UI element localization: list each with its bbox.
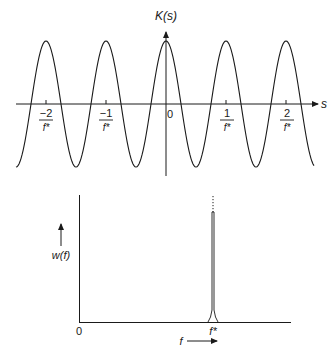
tick-label-neg2: −2 f* <box>39 107 53 133</box>
k-axis-label: K(s) <box>155 9 177 23</box>
svg-text:f*: f* <box>103 122 111 133</box>
bottom-plot: w(f) 0 f* f <box>52 195 291 347</box>
tick-label-neg1: −1 f* <box>99 107 113 133</box>
f-axis-label: f <box>179 335 183 347</box>
svg-text:1: 1 <box>224 107 230 119</box>
tick-label-pos1: 1 f* <box>220 107 234 133</box>
s-axis-label: s <box>321 97 327 111</box>
w-axis-label: w(f) <box>52 249 71 261</box>
figure: K(s) s 0 −2 f* −1 f* 1 f* 2 f* <box>0 0 334 361</box>
tick-label-pos2: 2 f* <box>280 107 294 133</box>
top-origin-label: 0 <box>167 108 173 120</box>
bottom-origin-label: 0 <box>76 325 82 337</box>
svg-text:−1: −1 <box>100 107 113 119</box>
svg-text:2: 2 <box>284 107 290 119</box>
top-plot: K(s) s 0 −2 f* −1 f* 1 f* 2 f* <box>16 9 327 176</box>
svg-text:−2: −2 <box>40 107 53 119</box>
spectral-spike <box>208 196 218 322</box>
svg-text:f*: f* <box>43 122 51 133</box>
svg-text:f*: f* <box>284 122 292 133</box>
svg-text:f*: f* <box>224 122 232 133</box>
peak-label: f* <box>209 325 217 337</box>
